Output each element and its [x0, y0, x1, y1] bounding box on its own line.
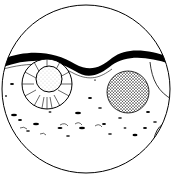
microscope-field-figure — [0, 0, 173, 179]
edge-ellipse-right — [151, 123, 169, 149]
stippled-sphere — [107, 71, 149, 113]
radiating-cell — [22, 59, 72, 109]
